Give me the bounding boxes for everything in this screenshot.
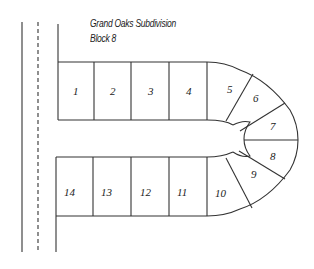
- lot-1-label: 1: [73, 85, 79, 97]
- subdivision-plat-map: 1 2 3 4 5 6 7 8 9 10 11 12 13 14: [0, 0, 314, 269]
- lot-3-label: 3: [147, 85, 154, 97]
- lot-divider: [226, 74, 253, 121]
- top-lots-outline: [58, 62, 240, 70]
- lot-divider: [240, 103, 285, 131]
- lot-divider: [239, 151, 285, 179]
- lot-8-label: 8: [270, 150, 276, 162]
- lot-11-label: 11: [177, 186, 187, 198]
- bottom-lots-outline: [56, 209, 240, 216]
- lot-10-label: 10: [215, 187, 227, 199]
- street-north-edge: [58, 120, 233, 125]
- lot-divider: [226, 158, 252, 208]
- lot-4-label: 4: [186, 85, 192, 97]
- lot-7-label: 7: [270, 120, 276, 132]
- lot-12-label: 12: [140, 186, 152, 198]
- lot-6-label: 6: [253, 92, 259, 104]
- lot-13-label: 13: [101, 186, 113, 198]
- lot-2-label: 2: [110, 85, 116, 97]
- street-south-edge: [56, 152, 233, 157]
- lot-9-label: 9: [251, 168, 257, 180]
- lot-5-label: 5: [227, 83, 233, 95]
- lot-14-label: 14: [64, 186, 76, 198]
